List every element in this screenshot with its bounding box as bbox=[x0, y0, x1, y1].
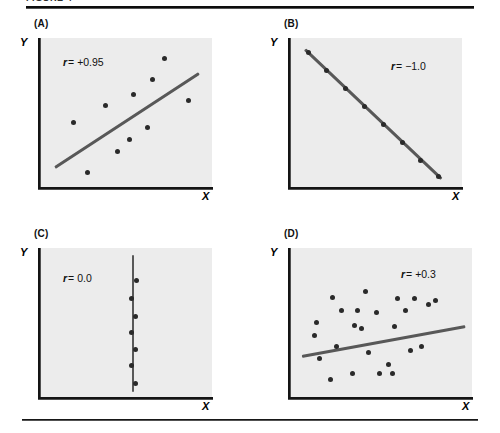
panel-c-r-annotation: r= 0.0 bbox=[63, 272, 92, 284]
panel-a-r-annotation: r= +0.95 bbox=[63, 56, 104, 68]
panel-b-x-axis-label: X bbox=[452, 190, 459, 202]
data-point bbox=[134, 278, 139, 283]
data-point bbox=[403, 308, 408, 313]
panel-b-plot-area: r= −1.0 bbox=[291, 38, 462, 187]
data-point bbox=[330, 295, 335, 300]
panel-d-x-axis bbox=[288, 397, 473, 400]
panel-d-label: (D) bbox=[284, 228, 298, 239]
panel-c-x-axis-label: X bbox=[202, 400, 209, 412]
data-point bbox=[408, 348, 413, 353]
data-point bbox=[359, 326, 364, 331]
panel-a: (A) Y X r= +0.95 bbox=[28, 18, 228, 208]
panel-d-r-value: = +0.3 bbox=[406, 268, 436, 280]
data-point bbox=[352, 323, 357, 328]
data-point bbox=[317, 356, 322, 361]
panel-a-r-value: = +0.95 bbox=[68, 56, 104, 68]
data-point bbox=[350, 371, 355, 376]
data-point bbox=[392, 324, 397, 329]
panel-a-y-axis-label: Y bbox=[20, 36, 27, 48]
panel-d-y-axis-label: Y bbox=[270, 246, 277, 258]
data-point bbox=[386, 362, 391, 367]
running-head: FIGURE 4 bbox=[26, 0, 72, 2]
data-point bbox=[436, 174, 441, 179]
panel-c-label: (C) bbox=[34, 228, 48, 239]
data-point bbox=[433, 298, 438, 303]
panel-b-y-axis-label: Y bbox=[270, 36, 277, 48]
panel-b-r-value: = −1.0 bbox=[396, 60, 426, 72]
data-point bbox=[328, 377, 333, 382]
data-point bbox=[186, 98, 191, 103]
panel-a-x-axis-label: X bbox=[202, 190, 209, 202]
data-point bbox=[381, 122, 386, 127]
panel-d-r-annotation: r= +0.3 bbox=[401, 268, 436, 280]
panel-d-fit-line bbox=[302, 325, 465, 358]
data-point bbox=[377, 371, 382, 376]
data-point bbox=[145, 125, 150, 130]
data-point bbox=[115, 149, 120, 154]
data-point bbox=[314, 320, 319, 325]
panel-b-x-axis bbox=[288, 187, 463, 190]
data-point bbox=[412, 296, 417, 301]
data-point bbox=[150, 77, 155, 82]
data-point bbox=[426, 302, 431, 307]
panel-c-fit-line bbox=[132, 255, 134, 392]
data-point bbox=[419, 344, 424, 349]
data-point bbox=[133, 347, 138, 352]
data-point bbox=[103, 103, 108, 108]
data-point bbox=[162, 56, 167, 61]
data-point bbox=[339, 308, 344, 313]
data-point bbox=[355, 308, 360, 313]
top-horizontal-rule bbox=[26, 6, 474, 9]
data-point bbox=[390, 371, 395, 376]
panel-a-x-axis bbox=[38, 187, 213, 190]
panel-c-x-axis bbox=[38, 397, 213, 400]
data-point bbox=[334, 344, 339, 349]
panel-a-label: (A) bbox=[34, 18, 48, 29]
data-point bbox=[133, 314, 138, 319]
data-point bbox=[366, 350, 371, 355]
data-point bbox=[400, 140, 405, 145]
data-point bbox=[374, 310, 379, 315]
data-point bbox=[71, 120, 76, 125]
panel-b-label: (B) bbox=[284, 18, 298, 29]
data-point bbox=[85, 170, 90, 175]
data-point bbox=[312, 333, 317, 338]
panel-d-x-axis-label: X bbox=[462, 400, 469, 412]
data-point bbox=[395, 296, 400, 301]
panel-d: (D) Y X r= +0.3 bbox=[278, 228, 478, 418]
panel-b: (B) Y X r= −1.0 bbox=[278, 18, 478, 208]
data-point bbox=[363, 289, 368, 294]
panel-b-r-annotation: r= −1.0 bbox=[391, 60, 426, 72]
panel-c-y-axis-label: Y bbox=[20, 246, 27, 258]
panel-c-plot-area: r= 0.0 bbox=[41, 248, 212, 397]
bottom-horizontal-rule bbox=[22, 419, 478, 421]
panel-c: (C) Y X r= 0.0 bbox=[28, 228, 228, 418]
panel-d-plot-area: r= +0.3 bbox=[291, 248, 472, 397]
panel-c-r-value: = 0.0 bbox=[68, 272, 92, 284]
data-point bbox=[131, 92, 136, 97]
panel-a-plot-area: r= +0.95 bbox=[41, 38, 212, 187]
data-point bbox=[127, 137, 132, 142]
data-point bbox=[133, 381, 138, 386]
